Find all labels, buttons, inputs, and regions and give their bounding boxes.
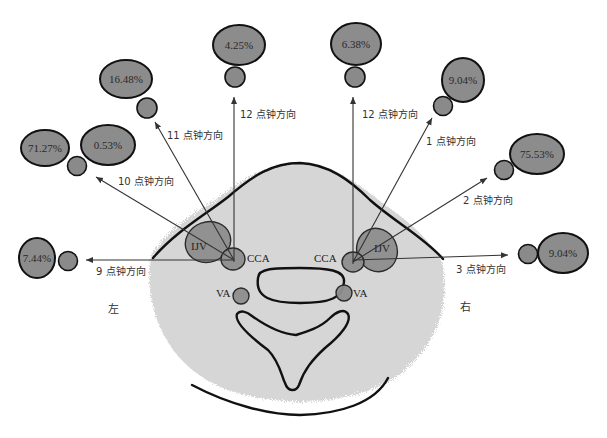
va-right <box>336 285 352 301</box>
bubble-12-oclock-left: 4.25% <box>213 25 265 87</box>
neck-clock-diagram: IJV CCA VA CCA IJV VA 9 点钟方向 10 点钟方向 11 … <box>0 0 607 438</box>
percent-10-oclock-secondary: 0.53% <box>94 139 122 151</box>
label-11-oclock: 11 点钟方向 <box>167 129 223 141</box>
bubble-2-oclock-right: 75.53% <box>495 134 565 180</box>
va-left <box>233 288 249 304</box>
percent-3-oclock: 9.04% <box>549 247 577 259</box>
left-side-label: 左 <box>108 303 119 316</box>
va-right-label: VA <box>353 287 368 299</box>
bubble-3-oclock-right: 9.04% <box>519 233 589 273</box>
label-10-oclock: 10 点钟方向 <box>118 175 174 187</box>
percent-2-oclock: 75.53% <box>520 148 554 160</box>
label-12-oclock-left: 12 点钟方向 <box>240 108 296 120</box>
label-1-oclock: 1 点钟方向 <box>426 135 476 147</box>
neck-cross-section <box>149 163 445 415</box>
va-left-label: VA <box>216 287 231 299</box>
percent-10-oclock: 71.27% <box>28 142 62 154</box>
percent-9-oclock: 7.44% <box>23 252 51 264</box>
label-3-oclock: 3 点钟方向 <box>456 263 506 275</box>
bubble-1-oclock-right: 9.04% <box>434 58 485 116</box>
percent-11-oclock: 16.48% <box>109 73 143 85</box>
label-2-oclock: 2 点钟方向 <box>463 194 513 206</box>
bubble-11-oclock-left: 16.48% <box>100 60 157 118</box>
label-9-oclock: 9 点钟方向 <box>96 265 146 277</box>
percent-1-oclock: 9.04% <box>449 74 477 86</box>
cca-left-label: CCA <box>247 252 270 264</box>
bubble-12-oclock-right: 6.38% <box>331 23 381 87</box>
percent-12-oclock-left: 4.25% <box>225 39 253 51</box>
cca-right-label: CCA <box>314 252 337 264</box>
bubble-9-oclock-left: 7.44% <box>19 238 78 278</box>
right-side-label: 右 <box>460 300 471 314</box>
bubble-10-oclock-left: 71.27% 0.53% <box>21 125 135 176</box>
label-12-oclock-right: 12 点钟方向 <box>362 108 418 120</box>
percent-12-oclock-right: 6.38% <box>342 38 370 50</box>
